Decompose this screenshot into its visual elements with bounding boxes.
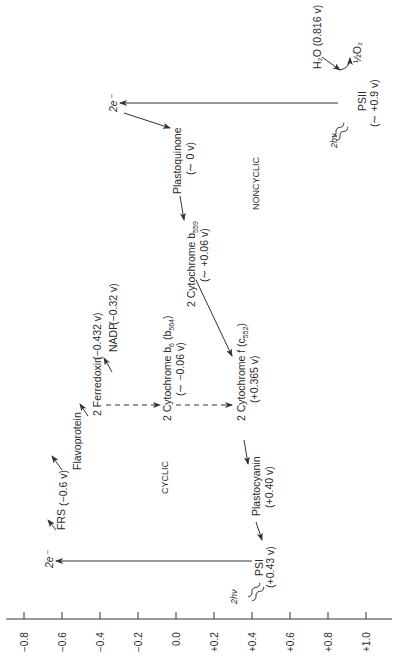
nadp-name: NADP (108, 323, 119, 352)
tick-label: −0.8 (20, 632, 30, 652)
cyt-b6-extra-close: ) (161, 316, 173, 320)
cyt-b6-extra: (b (161, 331, 173, 340)
ferredoxin-to-nadp-arrow (104, 358, 112, 372)
z-scheme-diagram (0, 0, 407, 659)
flavoprotein-name: Flavoprotein (72, 412, 83, 470)
cyt-b6-extra-sub: 564 (168, 319, 175, 331)
ps2-electrons-label: 2e⁻ (108, 94, 119, 112)
ferredoxin-name: 2 Ferredoxin (92, 357, 103, 416)
cyt-b559-potential: (∼ +0.06 v) (199, 228, 210, 282)
tick-label: +0.2 (210, 632, 220, 652)
frs-to-flavoprotein-arrow (52, 456, 62, 470)
tick-label: −0.2 (134, 632, 144, 652)
cytb559-to-cytf-arrow (196, 280, 232, 356)
plastoquinone-name: Plastoquinone (172, 127, 183, 194)
water-label: H₂O (0.816 v) (312, 5, 323, 69)
cyt-f-potential: (+0.365 v) (249, 355, 260, 403)
ps1-name: PSI (254, 559, 265, 576)
cyt-b559-label: 2 Cytochrome b (185, 233, 197, 307)
tick-label: −0.4 (96, 632, 106, 652)
water-potential: (0.816 v) (311, 5, 323, 46)
ps2-light-label: 2hν (330, 133, 339, 148)
cyt-f-label: 2 Cytochrome f (235, 350, 247, 421)
plastocyanin-potential: (+0.40 v) (264, 466, 275, 508)
tick-label: +1.0 (362, 632, 372, 652)
ferredoxin-potential: (−0.432 v) (92, 312, 103, 360)
cyt-f-extra-close: ) (235, 323, 247, 327)
plastoquinone-to-cytb559-arrow (180, 196, 184, 220)
nadp-potential: (−0.32 v) (108, 283, 119, 325)
plastocyanin-name: Plastocyanin (251, 456, 262, 516)
ps2-name: PSII (357, 91, 368, 111)
tick-label: 0.0 (172, 632, 182, 646)
plastoquinone-potential: (∼ 0 v) (185, 142, 196, 175)
water-to-ps2-arrow (322, 57, 340, 70)
oxygen-label: ½O₂ (352, 42, 363, 63)
cyt-b6-potential: (∼ −0.06 v) (175, 342, 186, 396)
oxygen-release-arrow (340, 58, 350, 70)
region-label-cyclic: CYCLIC (161, 461, 170, 494)
tick-label: +0.6 (286, 632, 296, 652)
tick-label: +0.4 (248, 632, 258, 652)
water-name: H₂O (311, 49, 323, 69)
plastocyanin-to-ps1-arrow (256, 522, 262, 540)
frs-potential: (−0.6 v) (58, 470, 69, 506)
cyt-b6-label: 2 Cytochrome b (161, 347, 173, 421)
ps1-light-label: 2hν (230, 589, 239, 604)
tick-label: −0.6 (58, 632, 68, 652)
potential-axis (6, 612, 392, 619)
cyt-f-extra: (c (235, 338, 247, 347)
frs-name: FRS (56, 509, 67, 530)
ps1-potential: (+0.43 v) (265, 546, 276, 588)
ps1-electrons-label: 2e⁻ (44, 550, 55, 568)
2e-to-plastoquinone-arrow (124, 113, 170, 128)
region-label-noncyclic: NONCYCLIC (252, 157, 261, 210)
cyt-f-extra-sub: 552 (242, 326, 249, 338)
ps2-potential: (∼ +0.9 v) (369, 79, 380, 127)
ps1-light-wave-1 (247, 582, 261, 598)
cytf-to-plastocyanin-arrow (244, 440, 248, 464)
tick-label: +0.8 (324, 632, 334, 652)
